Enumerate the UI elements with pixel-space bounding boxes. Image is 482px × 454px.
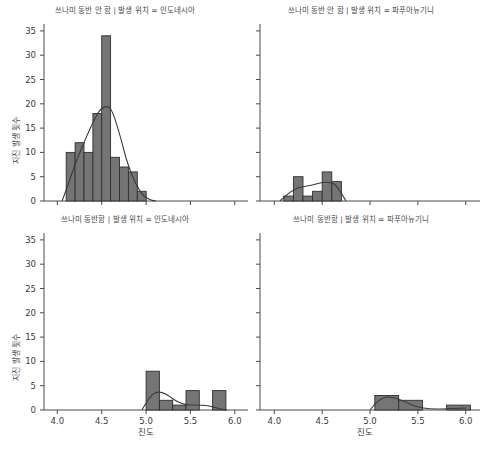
y-axis-ticks: 0 5 10 15 20 25 30 35 (25, 26, 44, 206)
plot-svg-bottom-left: 0 5 10 15 20 25 30 35 (16, 227, 250, 427)
svg-text:0: 0 (31, 405, 36, 415)
svg-text:10: 10 (25, 147, 36, 157)
plot-svg-top-right (254, 18, 482, 210)
x-axis-ticks: 4.0 4.5 5.0 5.5 6.0 (51, 410, 242, 426)
svg-text:35: 35 (25, 26, 36, 36)
plot-area-bottom-left: 0 5 10 15 20 25 30 35 (16, 227, 250, 427)
figure-root: 쓰나미 동반 안 함 | 발생 위치 = 인도네시아 지진 발생 횟수 0 5 … (0, 0, 482, 454)
y-axis-ticks (256, 31, 260, 201)
y-axis-ticks: 0 5 10 15 20 25 30 35 (25, 235, 44, 415)
x-axis-label-bottom-right: 진도 (260, 425, 470, 437)
y-axis-ticks (256, 240, 260, 410)
svg-text:5: 5 (31, 381, 36, 391)
panel-title-bottom-left: 쓰나미 동반함 | 발생 위치 = 인도네시아 (0, 213, 250, 224)
plot-svg-top-left: 0 5 10 15 20 25 30 35 (16, 18, 250, 210)
svg-text:20: 20 (25, 308, 36, 318)
plot-area-bottom-right: 4.0 4.5 5.0 5.5 6.0 (254, 227, 482, 427)
histogram-bars-top-right (284, 172, 342, 201)
x-axis-ticks (57, 201, 235, 205)
panel-title-top-left: 쓰나미 동반 안 함 | 발생 위치 = 인도네시아 (0, 4, 250, 15)
svg-text:25: 25 (25, 75, 36, 85)
svg-text:10: 10 (25, 356, 36, 366)
svg-text:15: 15 (25, 123, 36, 133)
svg-text:0: 0 (31, 196, 36, 206)
x-axis-ticks: 4.0 4.5 5.0 5.5 6.0 (268, 410, 473, 426)
plot-svg-bottom-right: 4.0 4.5 5.0 5.5 6.0 (254, 227, 482, 427)
plot-area-top-right (254, 18, 482, 210)
svg-text:5: 5 (31, 172, 36, 182)
histogram-bars-top-left (66, 36, 146, 201)
svg-text:35: 35 (25, 235, 36, 245)
svg-text:30: 30 (25, 50, 36, 60)
x-axis-ticks (274, 201, 465, 205)
panel-top-right: 쓰나미 동반 안 함 | 발생 위치 = 파푸아뉴기니 (240, 4, 482, 209)
panel-title-bottom-right: 쓰나미 동반함 | 발생 위치 = 파푸아뉴기니 (240, 213, 482, 224)
panel-bottom-left: 쓰나미 동반함 | 발생 위치 = 인도네시아 지진 발생 횟수 0 5 10 … (0, 213, 250, 425)
svg-text:15: 15 (25, 332, 36, 342)
panel-title-top-right: 쓰나미 동반 안 함 | 발생 위치 = 파푸아뉴기니 (240, 4, 482, 15)
panel-bottom-right: 쓰나미 동반함 | 발생 위치 = 파푸아뉴기니 4.0 (240, 213, 482, 425)
panel-top-left: 쓰나미 동반 안 함 | 발생 위치 = 인도네시아 지진 발생 횟수 0 5 … (0, 4, 250, 209)
svg-text:20: 20 (25, 99, 36, 109)
svg-text:30: 30 (25, 259, 36, 269)
plot-area-top-left: 0 5 10 15 20 25 30 35 (16, 18, 250, 210)
x-axis-label-bottom-left: 진도 (44, 425, 248, 437)
svg-text:25: 25 (25, 284, 36, 294)
